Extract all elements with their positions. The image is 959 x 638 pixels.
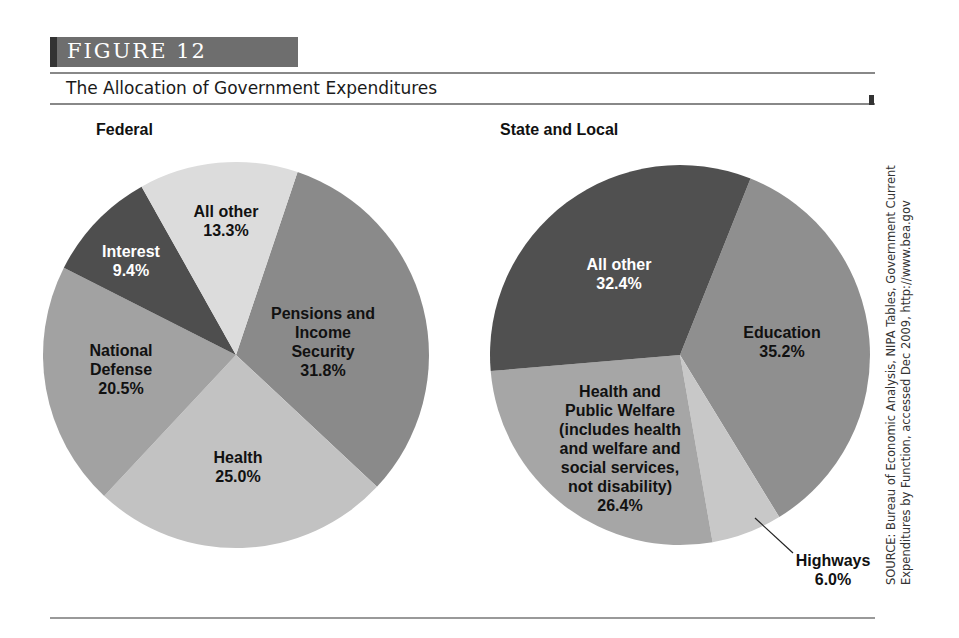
slice-label: National Defense 20.5% [89, 341, 152, 398]
leader-line [755, 518, 793, 553]
bottom-rule [50, 617, 875, 619]
slice-label: Education 35.2% [743, 323, 820, 361]
slice-label: All other 32.4% [587, 255, 652, 293]
slice-label: Interest 9.4% [102, 242, 160, 280]
slice-label: All other 13.3% [194, 202, 259, 240]
slice-label: Pensions and Income Security 31.8% [271, 304, 375, 380]
slice-label: Highways 6.0% [796, 551, 871, 589]
source-note: SOURCE: Bureau of Economic Analysis, NIP… [884, 105, 914, 585]
pie-charts [0, 0, 959, 638]
slice-label: Health and Public Welfare (includes heal… [559, 382, 681, 515]
slice-label: Health 25.0% [214, 448, 263, 486]
